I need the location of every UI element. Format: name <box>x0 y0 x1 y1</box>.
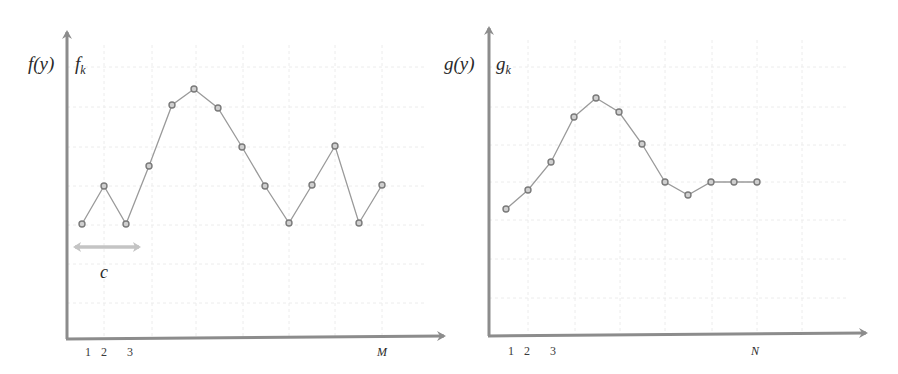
left-panel: f(y) fk c 1 2 3 M <box>28 32 444 359</box>
right-x-tick-3: 3 <box>550 344 556 358</box>
left-y-label-func: f(y) <box>28 53 54 75</box>
right-x-tick-1: 1 <box>508 344 514 358</box>
diagram-canvas: f(y) fk c 1 2 3 M <box>0 0 898 374</box>
left-x-tick-3: 3 <box>127 345 133 359</box>
left-series-line <box>82 89 382 224</box>
right-x-tick-2: 2 <box>524 344 530 358</box>
right-y-label-func: g(y) <box>444 53 475 75</box>
left-x-axis <box>66 336 444 339</box>
left-x-tick-1: 1 <box>85 345 91 359</box>
right-panel: g(y) gk 1 2 3 N <box>444 28 866 358</box>
right-x-end-label: N <box>750 344 760 358</box>
left-x-tick-2: 2 <box>101 345 107 359</box>
span-label: c <box>100 262 108 282</box>
left-y-label-seq: fk <box>75 53 86 77</box>
right-series-line <box>506 98 757 209</box>
right-series-points <box>503 95 760 212</box>
right-x-axis <box>488 333 866 336</box>
right-y-label-seq: gk <box>496 53 512 77</box>
left-x-end-label: M <box>376 345 388 359</box>
left-grid <box>67 45 425 338</box>
right-grid <box>489 40 846 334</box>
